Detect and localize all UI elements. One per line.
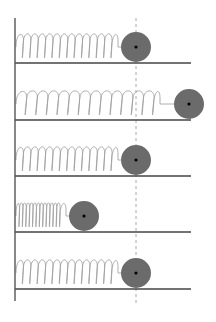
spring-coil	[16, 91, 175, 115]
spring-coil	[16, 260, 122, 284]
diagram-canvas	[0, 0, 216, 322]
spring-coil	[16, 147, 122, 171]
spring-coil	[16, 203, 70, 227]
spring-oscillation-diagram	[0, 0, 216, 322]
mass-center-dot	[82, 214, 85, 217]
mass-center-dot	[134, 271, 137, 274]
mass-center-dot	[134, 45, 137, 48]
mass-center-dot	[187, 102, 190, 105]
mass-center-dot	[134, 158, 137, 161]
spring-coil	[16, 34, 122, 58]
